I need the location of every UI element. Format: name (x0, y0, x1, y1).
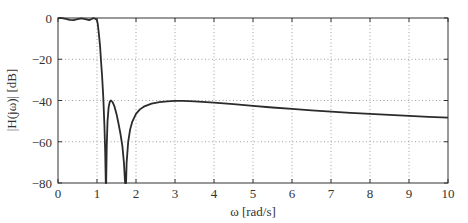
x-tick-label: 8 (367, 186, 374, 201)
x-axis-label: ω [rad/s] (230, 204, 276, 219)
y-tick-label: −60 (32, 135, 52, 150)
x-tick-label: 5 (250, 186, 257, 201)
x-tick-label: 3 (172, 186, 179, 201)
x-tick-label: 6 (289, 186, 296, 201)
y-tick-label: −80 (32, 176, 52, 191)
grid-lines (58, 18, 448, 183)
y-tick-label: −20 (32, 52, 52, 67)
y-axis-label: |H(jω)| [dB] (4, 69, 19, 132)
x-tick-labels: 012345678910 (55, 186, 455, 201)
x-tick-label: 4 (211, 186, 218, 201)
y-tick-label: −40 (32, 94, 52, 109)
x-tick-label: 0 (55, 186, 62, 201)
y-tick-label: 0 (46, 11, 53, 26)
chart: 012345678910 0−20−40−60−80 ω [rad/s] |H(… (0, 0, 468, 223)
x-tick-label: 9 (406, 186, 413, 201)
x-tick-label: 2 (133, 186, 140, 201)
x-tick-label: 7 (328, 186, 335, 201)
x-tick-label: 1 (94, 186, 101, 201)
x-tick-label: 10 (442, 186, 455, 201)
y-tick-labels: 0−20−40−60−80 (32, 11, 52, 191)
